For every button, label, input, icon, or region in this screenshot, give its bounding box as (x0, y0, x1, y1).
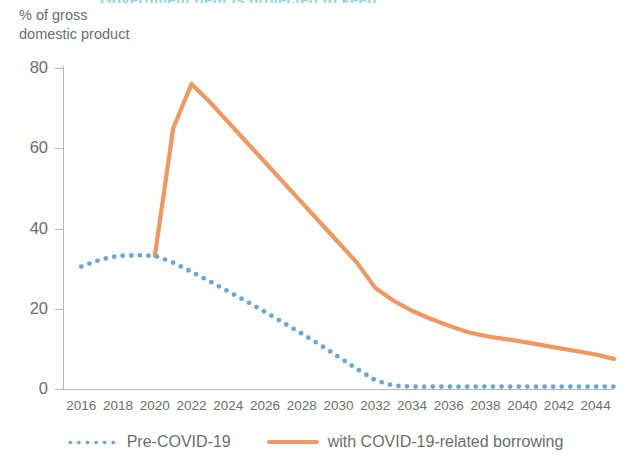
series-dot (328, 349, 333, 354)
series-dot (364, 372, 369, 377)
series-dot (396, 384, 401, 389)
series-dot (534, 384, 539, 389)
series-dot (155, 254, 160, 259)
legend-label-with-covid: with COVID-19-related borrowing (328, 433, 564, 451)
series-dot (611, 384, 616, 389)
series-dot (291, 326, 296, 331)
series-dot (342, 358, 347, 363)
series-dot (422, 384, 427, 389)
series-dot (120, 253, 125, 258)
series-dot (525, 384, 530, 389)
series-dot (209, 280, 214, 285)
series-dot (388, 382, 393, 387)
series-dot (178, 264, 183, 269)
series-dot (95, 258, 100, 263)
series-dot (129, 253, 134, 258)
legend-item-with-covid[interactable]: with COVID-19-related borrowing (267, 433, 564, 451)
series-dot (413, 384, 418, 389)
solid-line-swatch-icon (267, 440, 319, 445)
series-dot (299, 331, 304, 336)
series-dot (465, 384, 470, 389)
series-dot (448, 384, 453, 389)
series-dot (568, 384, 573, 389)
series-dot (516, 384, 521, 389)
series-dot (79, 264, 84, 269)
series-dot (306, 335, 311, 340)
series-dot (201, 276, 206, 281)
series-dot (138, 253, 143, 258)
series-dot (551, 384, 556, 389)
series-dot (321, 344, 326, 349)
series-dots-pre-covid (79, 253, 616, 389)
series-dot (349, 363, 354, 368)
series-dot (313, 340, 318, 345)
series-dot (163, 257, 168, 262)
series-dot (430, 384, 435, 389)
series-dot (186, 268, 191, 273)
series-dot (473, 384, 478, 389)
series-dot (379, 380, 384, 385)
series-dot (224, 288, 229, 293)
series-dot (335, 354, 340, 359)
series-dot (577, 384, 582, 389)
series-dot (247, 300, 252, 305)
series-dot (194, 272, 199, 277)
series-dot (171, 260, 176, 265)
series-dot (232, 292, 237, 297)
legend: Pre-COVID-19 with COVID-19-related borro… (0, 428, 629, 456)
series-dot (254, 305, 259, 310)
series-dot (216, 284, 221, 289)
series-canvas (0, 0, 629, 458)
series-dot (262, 309, 267, 314)
series-dot (508, 384, 513, 389)
legend-label-pre-covid: Pre-COVID-19 (127, 433, 231, 451)
legend-item-pre-covid[interactable]: Pre-COVID-19 (66, 433, 231, 451)
series-dot (559, 384, 564, 389)
series-dot (371, 377, 376, 382)
dotted-line-swatch-icon (66, 440, 118, 445)
series-dot (284, 322, 289, 327)
series-dot (276, 318, 281, 323)
series-dot (602, 384, 607, 389)
series-line-with-covid (155, 84, 614, 359)
series-dot (87, 261, 92, 266)
series-dot (499, 384, 504, 389)
chart-figure: Government debt is projected to keep % o… (0, 0, 629, 458)
series-dot (456, 384, 461, 389)
series-dot (112, 254, 117, 259)
series-dot (482, 384, 487, 389)
series-dot (585, 384, 590, 389)
series-dot (357, 368, 362, 373)
series-dot (542, 384, 547, 389)
series-dot (239, 296, 244, 301)
series-dot (146, 253, 151, 258)
series-dot (269, 313, 274, 318)
series-dot (594, 384, 599, 389)
series-dot (491, 384, 496, 389)
series-dot (439, 384, 444, 389)
series-dot (405, 384, 410, 389)
series-dot (103, 256, 108, 261)
